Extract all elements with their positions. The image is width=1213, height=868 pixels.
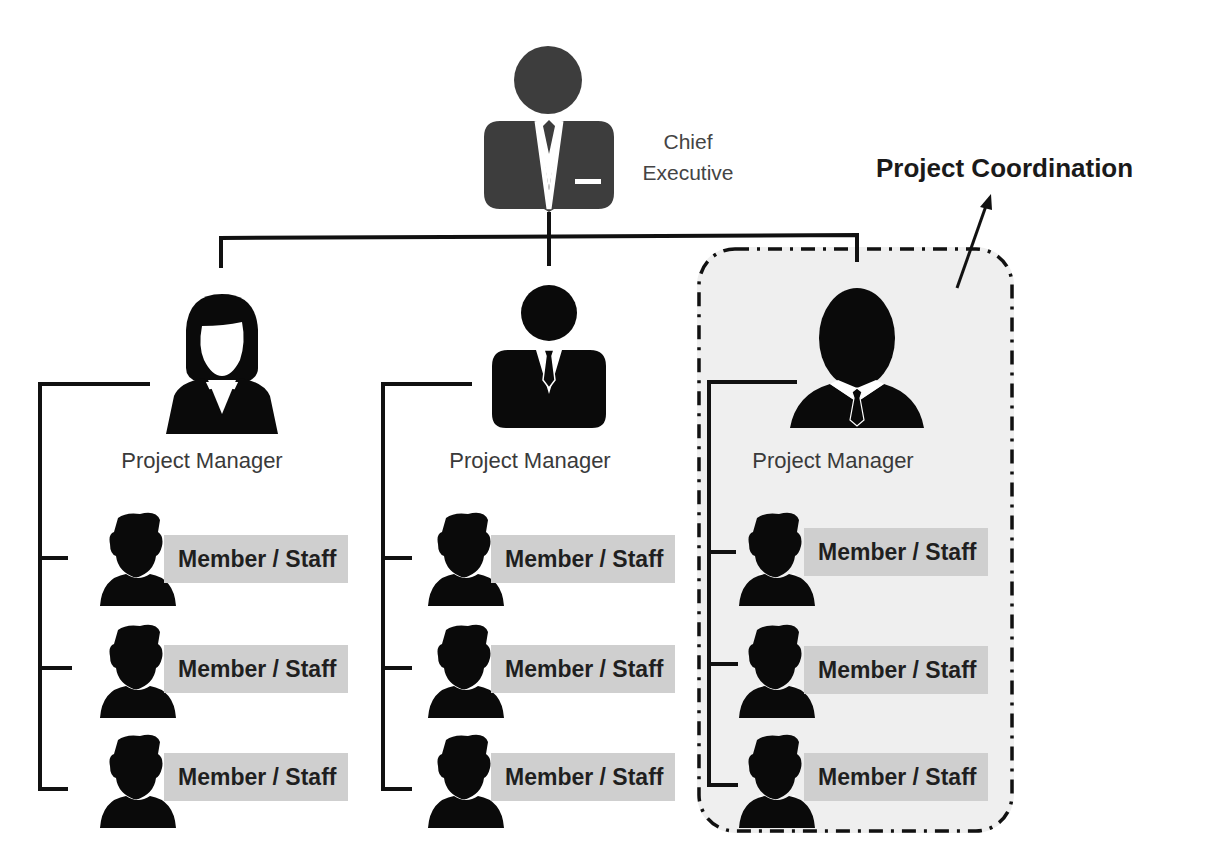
staff-label: Member / Staff	[804, 753, 988, 801]
staff-label: Member / Staff	[804, 646, 988, 694]
staff-label: Member / Staff	[491, 535, 675, 583]
staff-label: Member / Staff	[491, 645, 675, 693]
staff-label: Member / Staff	[804, 528, 988, 576]
businessman-icon	[480, 46, 618, 216]
project-coordination-title: Project Coordination	[876, 153, 1133, 184]
manager-1-label: Project Manager	[87, 448, 317, 474]
manager-3-label: Project Manager	[718, 448, 948, 474]
businessman-oval-head-icon	[788, 288, 926, 430]
exec-label-line2: Executive	[618, 157, 758, 188]
chief-executive-label: Chief Executive	[618, 126, 758, 188]
staff-label: Member / Staff	[164, 753, 348, 801]
staff-label: Member / Staff	[164, 535, 348, 583]
staff-label: Member / Staff	[164, 645, 348, 693]
businessman-tie-icon	[492, 284, 606, 432]
manager-2-label: Project Manager	[415, 448, 645, 474]
staff-label: Member / Staff	[491, 753, 675, 801]
exec-label-line1: Chief	[618, 126, 758, 157]
businesswoman-icon	[164, 292, 280, 436]
